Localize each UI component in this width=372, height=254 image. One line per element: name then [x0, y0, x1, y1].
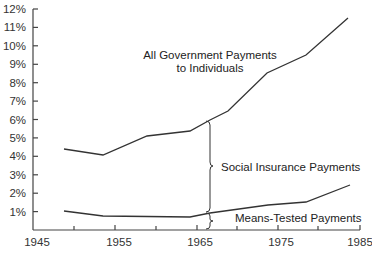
x-tick-label: 1955: [106, 236, 132, 248]
y-tick-label: 7%: [9, 95, 26, 107]
label-all-government-line2: to Individuals: [176, 62, 243, 74]
y-tick-label: 2%: [9, 187, 26, 199]
x-tick-label: 1965: [187, 236, 213, 248]
y-tick-label: 6%: [9, 114, 26, 126]
y-tick-label: 3%: [9, 169, 26, 181]
x-tick-labels: 1945 1955 1965 1975 1985: [24, 236, 372, 248]
y-tick-label: 10%: [3, 40, 26, 52]
y-tick-label: 4%: [9, 150, 26, 162]
brace-social-insurance: [206, 121, 213, 212]
y-tick-labels: 12% 11% 10% 9% 8% 7% 6% 5% 4% 3% 2% 1%: [3, 3, 26, 218]
x-tick-label: 1985: [347, 236, 372, 248]
label-all-government-line1: All Government Payments: [143, 49, 277, 61]
label-social-insurance: Social Insurance Payments: [221, 161, 361, 173]
y-tick-label: 1%: [9, 206, 26, 218]
chart: 12% 11% 10% 9% 8% 7% 6% 5% 4% 3% 2% 1% 1…: [0, 0, 372, 254]
series-all-government-payments: [64, 18, 348, 155]
y-axis: [33, 9, 38, 230]
y-tick-label: 12%: [3, 3, 26, 15]
x-axis: [33, 225, 360, 230]
y-tick-label: 8%: [9, 77, 26, 89]
x-tick-label: 1975: [268, 236, 294, 248]
x-tick-label: 1945: [24, 236, 50, 248]
y-tick-label: 5%: [9, 132, 26, 144]
y-tick-label: 9%: [9, 58, 26, 70]
brace-means-tested: [206, 213, 213, 229]
y-tick-label: 11%: [4, 21, 26, 33]
label-means-tested: Means-Tested Payments: [235, 212, 362, 224]
